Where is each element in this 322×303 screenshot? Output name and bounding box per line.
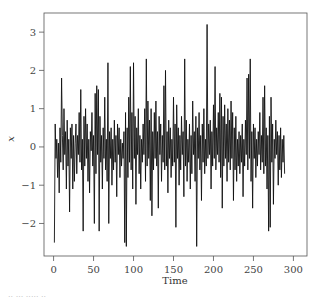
- y-tick-label: −2: [21, 218, 36, 229]
- x-axis-label: Time: [162, 275, 187, 286]
- x-tick-label: 50: [87, 264, 100, 275]
- time-series-chart: 050100150200250300 −2−10123 Time x: [0, 0, 322, 290]
- y-tick-label: 0: [30, 141, 36, 152]
- x-tick-label: 150: [164, 264, 183, 275]
- y-tick-label: 1: [30, 103, 36, 114]
- x-tick-label: 300: [284, 264, 303, 275]
- y-axis-label: x: [5, 136, 16, 142]
- x-tick-label: 0: [50, 264, 56, 275]
- plot-area: [44, 13, 307, 256]
- x-tick-label: 100: [124, 264, 143, 275]
- y-tick-label: −1: [21, 180, 36, 191]
- caption-fragment: ·· ··· ····· ··: [8, 292, 46, 301]
- x-tick-label: 200: [204, 264, 223, 275]
- y-tick-label: 2: [30, 65, 36, 76]
- y-axis: −2−10123: [21, 27, 44, 229]
- y-tick-label: 3: [30, 27, 36, 38]
- x-tick-label: 250: [244, 264, 263, 275]
- x-axis: 050100150200250300: [50, 256, 303, 275]
